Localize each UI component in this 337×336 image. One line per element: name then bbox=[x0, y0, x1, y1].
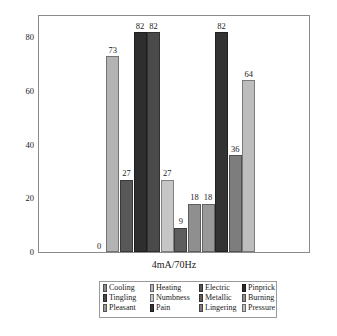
bar[interactable] bbox=[147, 32, 160, 252]
bar-slot: 27 bbox=[161, 16, 174, 252]
bar-slot: 73 bbox=[106, 16, 119, 252]
legend-item[interactable]: Pressure bbox=[242, 304, 275, 312]
bar[interactable] bbox=[106, 56, 119, 252]
bar[interactable] bbox=[120, 180, 133, 252]
legend-item[interactable]: Pinprick bbox=[242, 284, 275, 292]
legend-label: Numbness bbox=[156, 294, 190, 302]
legend-label: Heating bbox=[156, 284, 181, 292]
legend-label: Cooling bbox=[109, 284, 135, 292]
bar-value-label: 64 bbox=[245, 70, 254, 79]
legend-swatch bbox=[150, 284, 154, 292]
bar-value-label: 27 bbox=[122, 169, 131, 178]
legend-label: Pressure bbox=[248, 304, 275, 312]
legend-item[interactable]: Tingling bbox=[103, 294, 136, 302]
legend-label: Electric bbox=[205, 284, 230, 292]
y-tick-label: 40 bbox=[0, 140, 38, 149]
bar-slot: 18 bbox=[202, 16, 215, 252]
legend-swatch bbox=[199, 304, 203, 312]
bar-slot: 9 bbox=[174, 16, 187, 252]
bar-value-label: 82 bbox=[217, 22, 226, 31]
bar[interactable] bbox=[215, 32, 228, 252]
bar-slot: 0 bbox=[93, 16, 106, 252]
bar-value-label: 36 bbox=[231, 145, 240, 154]
legend-swatch bbox=[242, 304, 246, 312]
legend-swatch bbox=[103, 284, 107, 292]
y-tick-label: 60 bbox=[0, 87, 38, 96]
bar-chart: Percentage 020406080 0732782822791818823… bbox=[0, 0, 337, 336]
bar[interactable] bbox=[161, 180, 174, 252]
legend-label: Pain bbox=[156, 304, 170, 312]
bar-slot: 64 bbox=[242, 16, 255, 252]
bar[interactable] bbox=[174, 228, 187, 252]
legend-row: PleasantPainLingeringPressure bbox=[103, 304, 273, 314]
bar[interactable] bbox=[134, 32, 147, 252]
legend: CoolingHeatingElectricPinprickTinglingNu… bbox=[99, 281, 277, 318]
legend-swatch bbox=[199, 284, 203, 292]
bar-value-label: 82 bbox=[149, 22, 158, 31]
legend-swatch bbox=[150, 294, 154, 302]
bar[interactable] bbox=[188, 204, 201, 252]
bar-value-label: 9 bbox=[179, 217, 183, 226]
legend-item[interactable]: Pain bbox=[150, 304, 170, 312]
bar[interactable] bbox=[242, 80, 255, 252]
bar-slot: 82 bbox=[147, 16, 160, 252]
legend-item[interactable]: Heating bbox=[150, 284, 181, 292]
bar-slot: 82 bbox=[134, 16, 147, 252]
legend-swatch bbox=[103, 294, 107, 302]
bar-slot: 82 bbox=[215, 16, 228, 252]
legend-label: Lingering bbox=[205, 304, 237, 312]
bar-slot: 27 bbox=[120, 16, 133, 252]
bar-value-label: 18 bbox=[190, 193, 199, 202]
legend-label: Tingling bbox=[109, 294, 136, 302]
bar-value-label: 18 bbox=[204, 193, 213, 202]
legend-swatch bbox=[242, 284, 246, 292]
bar[interactable] bbox=[229, 155, 242, 252]
legend-swatch bbox=[199, 294, 203, 302]
legend-swatch bbox=[242, 294, 246, 302]
bar-value-label: 73 bbox=[109, 46, 118, 55]
legend-item[interactable]: Pleasant bbox=[103, 304, 136, 312]
legend-item[interactable]: Cooling bbox=[103, 284, 135, 292]
legend-swatch bbox=[103, 304, 107, 312]
bars-container: 0732782822791818823664 bbox=[39, 16, 309, 252]
legend-item[interactable]: Lingering bbox=[199, 304, 237, 312]
y-tick-label: 0 bbox=[0, 248, 38, 257]
bar-slot: 18 bbox=[188, 16, 201, 252]
y-tick-label: 20 bbox=[0, 194, 38, 203]
bar-value-label: 27 bbox=[163, 169, 172, 178]
legend-label: Pleasant bbox=[109, 304, 136, 312]
legend-item[interactable]: Electric bbox=[199, 284, 230, 292]
legend-item[interactable]: Metallic bbox=[199, 294, 232, 302]
legend-item[interactable]: Burning bbox=[242, 294, 274, 302]
bar[interactable] bbox=[202, 204, 215, 252]
legend-label: Burning bbox=[248, 294, 274, 302]
bar-value-label: 82 bbox=[136, 22, 145, 31]
y-tick-label: 80 bbox=[0, 33, 38, 42]
legend-swatch bbox=[150, 304, 154, 312]
x-axis-label: 4mA/70Hz bbox=[38, 259, 310, 270]
legend-item[interactable]: Numbness bbox=[150, 294, 190, 302]
legend-label: Metallic bbox=[205, 294, 232, 302]
bar-value-label: 0 bbox=[97, 242, 101, 251]
legend-label: Pinprick bbox=[248, 284, 275, 292]
bar-slot: 36 bbox=[229, 16, 242, 252]
